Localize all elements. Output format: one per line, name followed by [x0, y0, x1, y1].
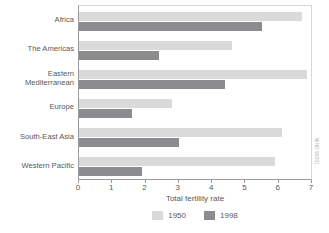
legend-item: 1950	[152, 211, 186, 220]
bar-1950	[79, 99, 172, 108]
x-tick-label: 2	[135, 183, 155, 192]
fertility-rate-bar-chart: AfricaThe AmericasEasternMediterraneanEu…	[0, 0, 329, 233]
bar-1998	[79, 167, 142, 176]
legend-label: 1998	[220, 211, 238, 220]
category-label: Africa	[0, 5, 74, 34]
x-tick-label: 3	[168, 183, 188, 192]
legend-swatch	[204, 211, 215, 220]
x-tick-label: 0	[68, 183, 88, 192]
x-tick-label: 1	[101, 183, 121, 192]
bar-group	[79, 123, 311, 152]
bar-1950	[79, 157, 275, 166]
bar-1950	[79, 12, 302, 21]
bar-group	[79, 35, 311, 64]
x-tick-label: 5	[234, 183, 254, 192]
x-tick-label: 4	[201, 183, 221, 192]
category-label: EasternMediterranean	[0, 63, 74, 92]
source-credit: WHO 99001	[314, 138, 319, 178]
bar-1950	[79, 70, 307, 79]
legend-label: 1950	[168, 211, 186, 220]
bar-group	[79, 6, 311, 35]
legend-item: 1998	[204, 211, 238, 220]
x-tick-label: 6	[268, 183, 288, 192]
bar-group	[79, 64, 311, 93]
bar-1998	[79, 109, 132, 118]
legend-swatch	[152, 211, 163, 220]
category-label: Western Pacific	[0, 151, 74, 180]
category-axis-labels: AfricaThe AmericasEasternMediterraneanEu…	[0, 5, 74, 180]
bar-1998	[79, 138, 179, 147]
x-tick-label: 7	[301, 183, 321, 192]
x-axis: 01234567	[78, 180, 312, 194]
chart-legend: 19501998	[78, 211, 312, 220]
bar-1998	[79, 80, 225, 89]
bar-1950	[79, 41, 232, 50]
category-label: South-East Asia	[0, 122, 74, 151]
bar-1950	[79, 128, 282, 137]
category-label: Europe	[0, 93, 74, 122]
bar-group	[79, 152, 311, 181]
bar-1998	[79, 22, 262, 31]
bar-group	[79, 94, 311, 123]
x-axis-title: Total fertility rate	[78, 194, 312, 203]
category-label: The Americas	[0, 34, 74, 63]
plot-area	[78, 5, 312, 180]
bar-1998	[79, 51, 159, 60]
